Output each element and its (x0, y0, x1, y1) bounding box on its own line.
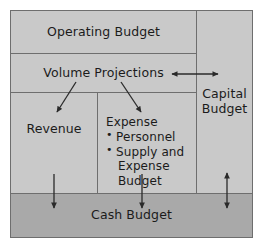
budget-flow-diagram: Operating Budget Volume Projections Reve… (0, 0, 263, 248)
expense-content: Expense Personnel Supply and Expense Bud… (106, 115, 196, 188)
block-capital-budget: Capital Budget (197, 11, 252, 194)
block-expense-label: Expense (106, 115, 196, 129)
block-capital-budget-label-line2: Budget (202, 101, 248, 116)
block-operating-budget-label: Operating Budget (47, 25, 160, 40)
block-volume-projections-label: Volume Projections (43, 66, 164, 81)
expense-item-text: Personnel (116, 130, 176, 144)
expense-item-list: Personnel Supply and Expense Budget (106, 130, 196, 188)
block-capital-budget-text: Capital Budget (202, 87, 248, 117)
block-operating-budget: Operating Budget (11, 11, 197, 54)
expense-list-item: Supply and Expense Budget (106, 145, 196, 187)
block-expense: Expense Personnel Supply and Expense Bud… (98, 93, 197, 194)
block-revenue-label: Revenue (26, 122, 81, 137)
expense-item-text: Supply and (116, 145, 184, 159)
block-volume-projections: Volume Projections (11, 54, 197, 93)
block-cash-budget-label: Cash Budget (91, 208, 172, 223)
block-revenue: Revenue (11, 93, 98, 194)
expense-item-text-continued: Expense Budget (116, 159, 196, 187)
block-capital-budget-label-line1: Capital (202, 86, 247, 101)
expense-list-item: Personnel (106, 130, 196, 144)
block-cash-budget: Cash Budget (11, 194, 252, 237)
